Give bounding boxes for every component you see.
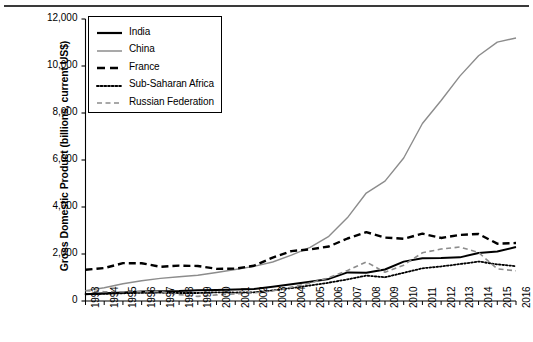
x-tick-label: 1997 [165, 287, 176, 308]
x-tick-label: 2006 [333, 287, 344, 308]
legend-swatch-icon [96, 43, 123, 55]
x-tick-label: 2005 [315, 287, 326, 308]
legend-swatch-icon [96, 25, 123, 37]
legend-swatch-icon [96, 95, 123, 107]
x-tick-label: 2012 [446, 287, 457, 308]
x-tick-label: 2011 [427, 287, 438, 308]
y-tick-label: 12,000 [32, 12, 78, 23]
y-tick-label: 8,000 [32, 106, 78, 117]
x-tick-label: 2013 [464, 287, 475, 308]
x-tick-label: 1998 [184, 287, 195, 308]
y-axis-ticks [82, 19, 86, 301]
x-tick-label: 1993 [90, 287, 101, 308]
legend-item-china[interactable]: China [96, 41, 155, 57]
x-tick-label: 2010 [408, 287, 419, 308]
y-tick-label: 10,000 [32, 59, 78, 70]
legend-swatch-icon [96, 78, 123, 90]
chart-legend: IndiaChinaFranceSub-Saharan AfricaRussia… [88, 16, 222, 113]
chart-figure: Gross Domestic Product (billions, curren… [0, 0, 533, 342]
x-tick-label: 2016 [521, 287, 532, 308]
x-tick-label: 1996 [146, 287, 157, 308]
x-tick-label: 2003 [277, 287, 288, 308]
x-tick-label: 2007 [352, 287, 363, 308]
x-tick-label: 2001 [240, 287, 251, 308]
y-tick-label: 6,000 [32, 153, 78, 164]
x-tick-label: 1999 [202, 287, 213, 308]
legend-item-sub-saharan-africa[interactable]: Sub-Saharan Africa [96, 76, 214, 92]
legend-item-label: France [129, 61, 160, 72]
legend-item-label: Sub-Saharan Africa [129, 78, 214, 89]
x-tick-label: 2008 [371, 287, 382, 308]
x-tick-label: 2015 [502, 287, 513, 308]
x-tick-label: 2004 [296, 287, 307, 308]
y-tick-label: 2,000 [32, 247, 78, 258]
legend-item-label: India [129, 26, 150, 37]
x-tick-label: 2009 [389, 287, 400, 308]
legend-item-label: China [129, 43, 155, 54]
legend-swatch-icon [96, 60, 123, 72]
x-tick-label: 1995 [127, 287, 138, 308]
x-tick-label: 2002 [258, 287, 269, 308]
x-tick-label: 2000 [221, 287, 232, 308]
legend-item-label: Russian Federation [129, 96, 214, 107]
legend-item-france[interactable]: France [96, 58, 160, 74]
y-tick-label: 0 [32, 294, 78, 305]
y-tick-label: 4,000 [32, 200, 78, 211]
legend-item-russian-federation[interactable]: Russian Federation [96, 93, 214, 109]
x-tick-label: 1994 [109, 287, 120, 308]
legend-item-india[interactable]: India [96, 23, 150, 39]
x-tick-label: 2014 [483, 287, 494, 308]
